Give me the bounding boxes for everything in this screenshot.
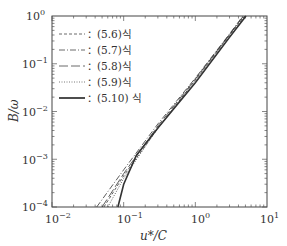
y-tick-label: 10−3: [22, 152, 48, 167]
y-tick-label: 10−1: [22, 56, 48, 71]
y-tick-label: 100: [26, 8, 45, 23]
legend-label: ：(5.6)식: [87, 28, 132, 40]
y-axis-label: B/ω: [7, 99, 21, 123]
legend-label: ：(5.7)식: [87, 44, 132, 56]
legend: ：(5.6)식 ：(5.7)식 ：(5.8)식 ：(5.9)식 ：(5.10) …: [59, 28, 142, 104]
y-tick-labels: 100 10−1 10−2 10−3 10−4: [22, 8, 48, 214]
x-tick-label: 10−2: [45, 211, 71, 226]
y-tick-label: 10−2: [22, 104, 48, 119]
x-tick-label: 10−1: [117, 211, 143, 226]
plot-frame: [52, 16, 267, 207]
legend-label: ：(5.9)식: [87, 76, 132, 88]
y-tick-label: 10−4: [22, 199, 48, 214]
curve-solid: [118, 16, 246, 207]
axis-ticks: [52, 16, 267, 207]
legend-label: ：(5.8)식: [87, 60, 132, 72]
x-tick-label: 101: [260, 211, 279, 226]
legend-label: ：(5.10) 식: [87, 92, 142, 104]
x-tick-label: 100: [191, 211, 210, 226]
x-axis-label: u*/C: [140, 229, 167, 243]
x-tick-labels: 10−2 10−1 100 101: [45, 211, 279, 226]
chart: 100 10−1 10−2 10−3 10−4 10−2 10−1 100 10…: [0, 0, 287, 246]
